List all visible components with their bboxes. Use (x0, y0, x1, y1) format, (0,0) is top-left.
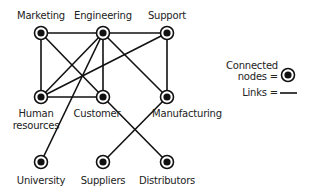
link-engineering-manufacturing (103, 33, 167, 97)
label-engineering: Engineering (74, 10, 132, 21)
label-hr-line1: Human (18, 108, 53, 119)
node-customer (97, 91, 110, 104)
node-marketing (35, 27, 48, 40)
label-university: University (17, 175, 65, 186)
node-engineering (97, 27, 110, 40)
node-suppliers (97, 156, 110, 169)
legend-node-icon (282, 69, 295, 82)
label-marketing: Marketing (17, 10, 65, 21)
node-hr (35, 91, 48, 104)
link-support-hr (41, 33, 167, 97)
label-suppliers: Suppliers (81, 175, 126, 186)
label-distributors: Distributors (139, 175, 195, 186)
node-university (35, 156, 48, 169)
node-manufacturing (161, 91, 174, 104)
legend-nodes-line2: nodes = (238, 71, 278, 82)
legend-nodes-line1: Connected (226, 60, 278, 71)
node-distributors (161, 156, 174, 169)
label-hr-line2: resources (13, 120, 60, 131)
label-customer: Customer (74, 108, 121, 119)
label-support: Support (148, 10, 186, 21)
label-manufacturing: Manufacturing (152, 108, 222, 119)
legend-links: Links = (242, 87, 278, 98)
node-support (161, 27, 174, 40)
